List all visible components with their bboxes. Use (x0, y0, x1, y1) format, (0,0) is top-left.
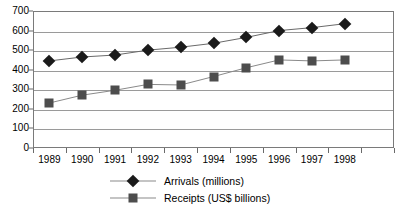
x-tick-mark (263, 148, 264, 153)
x-tick-label: 1991 (104, 154, 126, 165)
plot-area (33, 11, 394, 148)
x-tick-mark (197, 148, 198, 153)
chart-legend: Arrivals (millions)Receipts (US$ billion… (110, 172, 340, 206)
y-axis: 0100200300400500600700 (0, 0, 33, 213)
x-tick-label: 1995 (235, 154, 257, 165)
x-tick-label: 1992 (137, 154, 159, 165)
legend-key-diamond (110, 174, 156, 188)
x-tick-mark (230, 148, 231, 153)
x-tick-mark (66, 148, 67, 153)
x-tick-label: 1989 (38, 154, 60, 165)
x-tick-label: 1998 (334, 154, 356, 165)
x-tick-mark (361, 148, 362, 153)
y-tick-label: 400 (12, 65, 29, 75)
legend-label: Arrivals (millions) (156, 175, 244, 187)
x-tick-label: 1990 (71, 154, 93, 165)
y-tick-label: 300 (12, 84, 29, 94)
legend-item[interactable]: Arrivals (millions) (110, 172, 340, 189)
x-tick-mark (328, 148, 329, 153)
x-tick-mark (131, 148, 132, 153)
x-tick-label: 1993 (170, 154, 192, 165)
legend-label: Receipts (US$ billions) (156, 192, 270, 204)
y-tick-label: 100 (12, 123, 29, 133)
x-tick-label: 1994 (202, 154, 224, 165)
legend-item[interactable]: Receipts (US$ billions) (110, 189, 340, 206)
y-tick-label: 700 (12, 6, 29, 16)
x-tick-label: 1996 (268, 154, 290, 165)
gridline (34, 71, 393, 72)
x-tick-mark (164, 148, 165, 153)
x-tick-label: 1997 (301, 154, 323, 165)
x-tick-mark (296, 148, 297, 153)
square-marker-icon (129, 193, 138, 202)
tourism-trend-chart: 0100200300400500600700 19891990199119921… (0, 0, 414, 213)
gridline (34, 129, 393, 130)
gridline (34, 110, 393, 111)
diamond-marker-icon (127, 174, 140, 187)
gridline (34, 90, 393, 91)
x-tick-mark (394, 148, 395, 153)
x-tick-mark (99, 148, 100, 153)
x-tick-mark (33, 148, 34, 153)
legend-key-square (110, 191, 156, 205)
x-axis: 1989199019911992199319941995199619971998 (33, 148, 394, 170)
y-tick-label: 600 (12, 26, 29, 36)
y-tick-label: 500 (12, 45, 29, 55)
gridline (34, 51, 393, 52)
gridline (34, 32, 393, 33)
y-tick-label: 200 (12, 104, 29, 114)
